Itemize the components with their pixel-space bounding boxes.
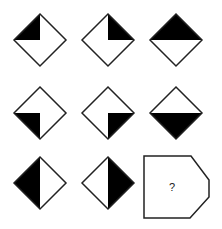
cell-r2c2-diamond-bottom-right-shaded xyxy=(82,87,134,139)
cell-r2c3-diamond-bottom-half-shaded xyxy=(150,87,202,139)
cell-r2c1-diamond-bottom-left-shaded xyxy=(14,87,66,139)
cell-r1c3-diamond-top-half-shaded xyxy=(150,14,202,66)
cell-r1c1-diamond-top-left-shaded xyxy=(14,14,66,66)
cell-r3c2-diamond-right-half-shaded xyxy=(82,157,134,209)
cell-r1c2-diamond-top-right-shaded xyxy=(82,14,134,66)
puzzle-canvas: ? xyxy=(0,0,222,229)
question-mark: ? xyxy=(169,181,175,193)
cell-r3c1-diamond-left-half-shaded xyxy=(14,157,66,209)
answer-box[interactable]: ? xyxy=(144,156,209,218)
